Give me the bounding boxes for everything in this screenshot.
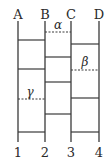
top-label-b: B (40, 7, 50, 22)
rungs (18, 32, 99, 132)
bottom-label-4: 4 (95, 145, 103, 160)
bottom-label-3: 3 (67, 145, 75, 160)
ladder-diagram: A B C D α β γ 1 2 3 4 (0, 0, 109, 160)
gamma-label: γ (26, 85, 34, 99)
beta-label: β (81, 55, 89, 69)
bottom-label-1: 1 (14, 145, 22, 160)
top-label-d: D (94, 7, 104, 22)
top-label-c: C (66, 7, 76, 22)
bottom-label-2: 2 (41, 145, 49, 160)
alpha-label: α (54, 18, 62, 32)
top-label-a: A (12, 7, 23, 22)
